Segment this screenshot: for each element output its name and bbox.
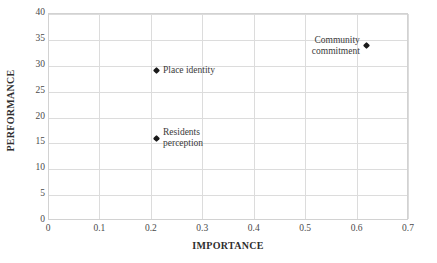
- gridline-vertical: [408, 14, 409, 219]
- gridline-vertical: [202, 14, 203, 219]
- gridline-vertical: [305, 14, 306, 219]
- scatter-chart: PERFORMANCE 00.10.20.30.40.50.60.7051015…: [0, 0, 437, 263]
- y-axis-title-text: PERFORMANCE: [5, 69, 16, 151]
- y-axis-title: PERFORMANCE: [2, 0, 18, 220]
- y-axis-tick-label: 10: [19, 163, 45, 173]
- x-axis-tick-label: 0.4: [234, 224, 274, 234]
- y-axis-tick-label: 40: [19, 8, 45, 18]
- x-axis-tick-label: 0: [28, 224, 68, 234]
- gridline-horizontal: [49, 92, 407, 93]
- y-axis-tick-label: 20: [19, 112, 45, 122]
- gridline-vertical: [151, 14, 152, 219]
- x-axis-title: IMPORTANCE: [48, 240, 408, 251]
- gridline-horizontal: [49, 195, 407, 196]
- gridline-horizontal: [49, 66, 407, 67]
- y-axis-tick-label: 5: [19, 189, 45, 199]
- y-axis-tick-label: 30: [19, 60, 45, 70]
- y-axis-tick-label: 35: [19, 34, 45, 44]
- gridline-vertical: [99, 14, 100, 219]
- gridline-horizontal: [49, 118, 407, 119]
- x-axis-tick-label: 0.6: [337, 224, 377, 234]
- y-axis-tick-label: 15: [19, 137, 45, 147]
- data-point-label: Place identity: [163, 65, 215, 76]
- gridline-horizontal: [49, 14, 407, 15]
- y-axis-tick-label: 25: [19, 86, 45, 96]
- gridline-vertical: [254, 14, 255, 219]
- gridline-horizontal: [49, 169, 407, 170]
- data-point-label: Community commitment: [312, 35, 360, 57]
- x-axis-tick-label: 0.7: [388, 224, 428, 234]
- gridline-horizontal: [49, 143, 407, 144]
- x-axis-tick-label: 0.1: [79, 224, 119, 234]
- x-axis-tick-label: 0.5: [285, 224, 325, 234]
- y-axis-tick-label: 0: [19, 215, 45, 225]
- x-axis-tick-label: 0.2: [131, 224, 171, 234]
- data-point-label: Residents perception: [163, 127, 203, 149]
- x-axis-tick-label: 0.3: [182, 224, 222, 234]
